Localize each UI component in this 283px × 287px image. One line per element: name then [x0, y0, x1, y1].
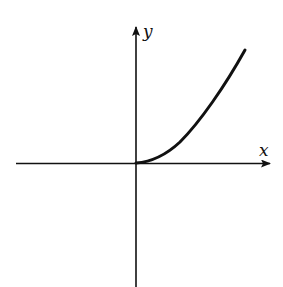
function-curve — [136, 50, 245, 163]
x-axis-label: x — [259, 140, 269, 160]
function-graph: y x — [0, 0, 283, 287]
y-axis-label: y — [142, 21, 153, 41]
